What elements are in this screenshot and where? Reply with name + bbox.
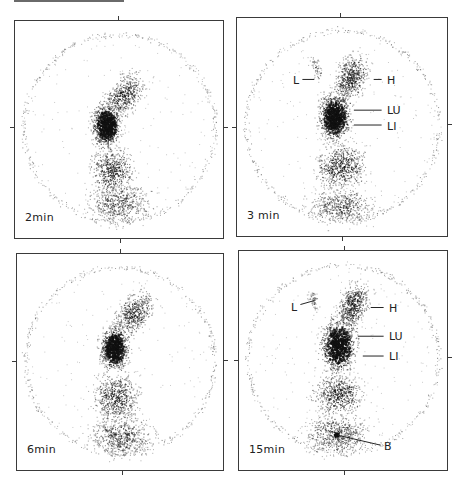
tick-top <box>340 13 341 17</box>
scintigraphy-panel-3min: 3 min LHLULI <box>236 17 448 237</box>
annotation-h: H <box>387 75 395 86</box>
tick-left <box>10 127 14 128</box>
time-label: 6min <box>27 443 56 456</box>
tick-bottom <box>344 471 345 475</box>
annotation-l: L <box>291 302 297 313</box>
scan-image <box>15 21 223 238</box>
tick-bottom <box>122 471 123 475</box>
annotation-b: B <box>384 441 392 452</box>
tick-left <box>234 360 238 361</box>
tick-right <box>224 127 228 128</box>
annotation-lu: LU <box>387 105 401 116</box>
scintigraphy-panel-15min: 15min LHLULIB <box>238 250 448 471</box>
time-label: 3 min <box>247 209 280 222</box>
tick-right <box>448 357 452 358</box>
time-label: 2min <box>25 211 54 224</box>
annotation-li: LI <box>389 351 398 362</box>
tick-top <box>118 16 119 20</box>
tick-top <box>344 246 345 250</box>
tick-left <box>12 361 16 362</box>
scintigraphy-panel-6min: 6min <box>16 253 224 471</box>
annotation-li: LI <box>387 121 396 132</box>
annotation-h: H <box>389 303 397 314</box>
tick-bottom <box>120 239 121 243</box>
scintigraphy-panel-2min: 2min <box>14 20 224 239</box>
annotation-l: L <box>293 75 299 86</box>
annotation-lu: LU <box>389 331 403 342</box>
scan-image <box>239 251 447 470</box>
tick-bottom <box>342 237 343 241</box>
scan-image <box>237 18 447 236</box>
tick-left <box>232 127 236 128</box>
tick-right <box>224 360 228 361</box>
header-rule <box>14 0 124 2</box>
tick-right <box>448 124 452 125</box>
time-label: 15min <box>249 443 285 456</box>
scan-image <box>17 254 223 470</box>
tick-top <box>120 249 121 253</box>
